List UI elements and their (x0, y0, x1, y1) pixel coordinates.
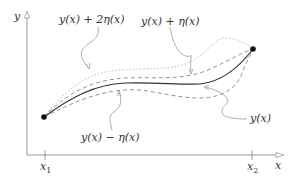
x2-subscript: 2 (253, 166, 258, 175)
label-y-minus-eta: y(x) − η(x) (81, 132, 140, 143)
x-axis-arrow-icon (276, 153, 284, 158)
start-point (41, 114, 47, 120)
label-y-plus-eta: y(x) + η(x) (141, 16, 200, 27)
x1-subscript: 1 (46, 166, 51, 175)
x2-tick-label: x2 (247, 161, 258, 175)
curve-y (44, 49, 253, 117)
y-axis-arrow-icon (25, 11, 30, 18)
label-y: y(x) (250, 113, 271, 124)
x-axis-label: x (275, 160, 281, 171)
end-point (250, 46, 256, 52)
y-axis-label: y (14, 11, 20, 22)
label-y-plus-2eta: y(x) + 2η(x) (59, 14, 125, 25)
x1-tick-label: x1 (40, 161, 51, 175)
leader-y-plus-eta (170, 27, 191, 72)
leader-y-plus-2eta (81, 27, 98, 67)
leader-y-minus-eta (110, 93, 121, 130)
variational-curves-diagram: y x x1 x2 y(x) + 2η(x) y(x) + η(x) y(x) … (0, 0, 300, 178)
